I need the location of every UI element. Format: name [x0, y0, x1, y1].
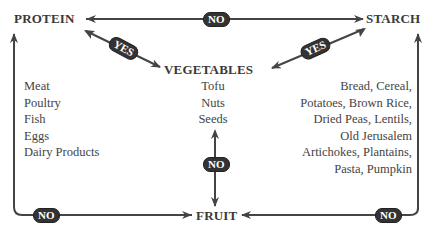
protein-list: Meat Poultry Fish Eggs Dairy Products	[24, 78, 99, 161]
list-item: Meat	[24, 78, 99, 95]
list-item: Old Jerusalem	[300, 128, 412, 145]
badge-starch-fruit: NO	[375, 208, 402, 223]
list-item: Dairy Products	[24, 144, 99, 161]
list-item: Artichokes, Plantains,	[300, 144, 412, 161]
list-item: Pasta, Pumpkin	[300, 161, 412, 178]
badge-vegetables-fruit: NO	[203, 157, 230, 172]
list-item: Tofu	[184, 78, 242, 95]
node-starch: STARCH	[366, 11, 420, 27]
node-vegetables: VEGETABLES	[164, 62, 253, 78]
list-item: Seeds	[184, 111, 242, 128]
list-item: Nuts	[184, 95, 242, 112]
list-item: Dried Peas, Lentils,	[300, 111, 412, 128]
node-fruit: FRUIT	[196, 208, 237, 224]
list-item: Bread, Cereal,	[300, 78, 412, 95]
badge-protein-starch: NO	[203, 12, 230, 27]
node-protein: PROTEIN	[14, 11, 75, 27]
badge-protein-fruit: NO	[33, 208, 60, 223]
list-item: Potatoes, Brown Rice,	[300, 95, 412, 112]
vegetables-list: Tofu Nuts Seeds	[184, 78, 242, 128]
starch-list: Bread, Cereal, Potatoes, Brown Rice, Dri…	[300, 78, 412, 177]
list-item: Eggs	[24, 128, 99, 145]
list-item: Fish	[24, 111, 99, 128]
list-item: Poultry	[24, 95, 99, 112]
